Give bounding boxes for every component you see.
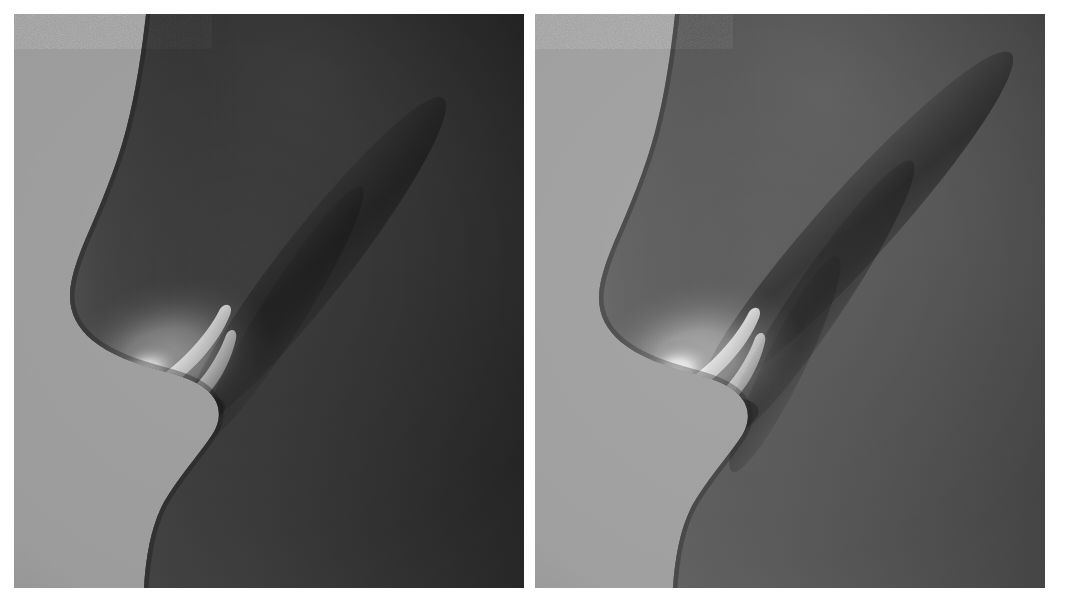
render-panel-right bbox=[535, 14, 1045, 588]
caption-left bbox=[14, 592, 532, 614]
film-grain-left bbox=[14, 14, 212, 49]
render-panel-left bbox=[14, 14, 524, 588]
film-grain-right bbox=[535, 14, 733, 49]
figure-container bbox=[0, 0, 1068, 616]
face-silhouette-left bbox=[14, 14, 524, 588]
face-silhouette-right bbox=[535, 14, 1045, 588]
caption-right bbox=[532, 592, 1050, 614]
caption-row bbox=[14, 592, 1049, 614]
